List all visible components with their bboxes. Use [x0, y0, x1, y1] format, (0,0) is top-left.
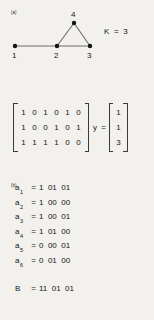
code-bits: 0 01 00: [39, 256, 70, 265]
code-line: a5 = 0 00 01: [0, 241, 154, 256]
b-bits: 11 01 01: [39, 284, 74, 293]
code-line: a3 = 1 00 01: [0, 212, 154, 227]
matrix-equation-panel: (b) 1 0 1 0 1 0 1 0 0 1 0 1 1 1 1: [0, 94, 154, 160]
matrix-cell: 1: [51, 138, 62, 147]
matrix-cell: 1: [18, 138, 29, 147]
graph-node-4: [72, 21, 76, 25]
code-equals: =: [28, 256, 39, 265]
matrix-cell: 1: [18, 123, 29, 132]
result-vector: 1 1 3: [109, 103, 128, 152]
matrix-cell: 0: [73, 138, 84, 147]
code-subscript: 6: [20, 262, 23, 268]
matrix-row: 1 0 0 1 0 1: [18, 120, 84, 135]
code-subscript: 2: [20, 204, 23, 210]
code-equals: =: [28, 241, 39, 250]
code-line: a6 = 0 01 00: [0, 256, 154, 271]
code-line: a4 = 1 01 00: [0, 227, 154, 242]
b-equals: =: [28, 284, 39, 293]
matrix-row: 1 0 1 0 1 0: [18, 105, 84, 120]
vector-row: 1: [114, 105, 123, 120]
code-subscript: 3: [20, 218, 23, 224]
graph-diagram: [0, 0, 154, 82]
matrix-cell: 0: [73, 108, 84, 117]
matrix-cell: 0: [51, 108, 62, 117]
code-equals: =: [28, 227, 39, 236]
code-subscript: 5: [20, 247, 23, 253]
matrix-cell: 0: [62, 123, 73, 132]
code-subscript: 1: [20, 189, 23, 195]
incidence-matrix: 1 0 1 0 1 0 1 0 0 1 0 1 1 1 1 1 0 0: [13, 103, 89, 152]
k-value-label: K = 3: [104, 27, 129, 36]
matrix-cell: 1: [18, 108, 29, 117]
code-bits: 1 01 01: [39, 183, 70, 192]
figure-root: (a) 1 2 3 4 K = 3 (b) 1 0 1 0: [0, 0, 154, 320]
matrix-cell: 0: [29, 123, 40, 132]
graph-node-label-3: 3: [87, 51, 91, 60]
code-bits: 1 01 00: [39, 227, 70, 236]
b-row-line: B = 11 01 01: [0, 284, 154, 293]
vector-cell: 1: [114, 108, 123, 117]
graph-panel: (a) 1 2 3 4 K = 3: [0, 0, 154, 82]
matrix-row: 1 1 1 1 0 0: [18, 135, 84, 150]
code-bits: 1 00 01: [39, 212, 70, 221]
code-symbol: a3: [15, 212, 28, 225]
graph-edge-3-4: [74, 23, 90, 46]
graph-node-label-1: 1: [12, 51, 16, 60]
graph-node-1: [13, 44, 17, 48]
code-equals: =: [28, 198, 39, 207]
matrix-cell: 1: [40, 108, 51, 117]
graph-node-3: [88, 44, 92, 48]
graph-edge-2-4: [57, 23, 74, 46]
matrix-cell: 1: [29, 138, 40, 147]
equation-operator: y =: [93, 123, 107, 132]
codes-panel: (c) a1 = 1 01 01 a2 = 1 00 00 a3 = 1 00 …: [0, 183, 154, 293]
code-bits: 0 00 01: [39, 241, 70, 250]
vector-row: 1: [114, 120, 123, 135]
graph-node-label-4: 4: [71, 10, 75, 19]
matrix-cell: 0: [62, 138, 73, 147]
vector-row: 3: [114, 135, 123, 150]
b-symbol: B: [15, 284, 28, 293]
code-symbol: a1: [15, 183, 28, 196]
matrix-cell: 1: [73, 123, 84, 132]
code-line: a1 = 1 01 01: [0, 183, 154, 198]
vector-cell: 3: [114, 138, 123, 147]
code-symbol: a2: [15, 198, 28, 211]
code-symbol: a5: [15, 241, 28, 254]
vector-cell: 1: [114, 123, 123, 132]
matrix-cell: 1: [40, 138, 51, 147]
matrix-cell: 1: [51, 123, 62, 132]
matrix-cell: 1: [62, 108, 73, 117]
code-line: a2 = 1 00 00: [0, 198, 154, 213]
matrix-cell: 0: [29, 108, 40, 117]
code-symbol: a4: [15, 227, 28, 240]
code-bits: 1 00 00: [39, 198, 70, 207]
graph-node-label-2: 2: [54, 51, 58, 60]
graph-node-2: [55, 44, 59, 48]
code-subscript: 4: [20, 233, 23, 239]
matrix-cell: 0: [40, 123, 51, 132]
code-equals: =: [28, 183, 39, 192]
code-equals: =: [28, 212, 39, 221]
code-symbol: a6: [15, 256, 28, 269]
